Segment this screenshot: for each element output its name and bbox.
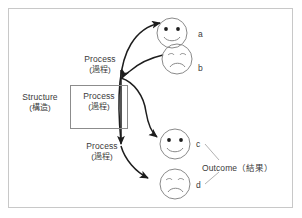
face-d-outline [160,169,190,199]
face-d [160,169,190,199]
face-tag-b: b [198,63,203,73]
process-top-label-jp: (過程) [76,65,124,75]
process-bottom-label-en: Process [78,141,126,152]
process-top-label: Process (過程) [76,54,124,75]
face-c-outline [160,129,190,159]
face-d-frown [168,188,183,192]
figure-root: Structure (構造) Process (過程) Process (過程)… [0,0,302,218]
face-c-smile [167,148,183,152]
leader-line-c-to-outcome [205,144,219,160]
face-d-eye-right [178,179,184,181]
face-d-eye-left [166,179,172,181]
outcome-label: Outcome（結果） [202,163,286,174]
face-b-frown [170,63,185,67]
face-tag-d: d [196,180,201,190]
face-a-outline [157,18,187,48]
face-b [162,44,192,74]
face-c-eye-left [167,138,171,142]
face-tag-a: a [198,29,203,39]
face-a [157,18,187,48]
arrow-face-b-to-process [122,55,163,78]
process-bottom-label-jp: (過程) [78,152,126,162]
process-box-label-en: Process [71,91,127,102]
process-box-label: Process (過程) [71,91,127,112]
leader-line-d-to-outcome [205,172,219,184]
process-bottom-label: Process (過程) [78,141,126,162]
face-a-eye-right [176,27,180,31]
face-b-eye-right [180,54,186,56]
face-c-eye-right [179,138,183,142]
face-b-eye-left [168,54,174,56]
structure-label-jp: (構造) [10,103,70,113]
face-c [160,129,190,159]
face-tag-c: c [196,139,200,149]
face-a-smile [164,37,180,41]
face-a-eye-left [164,27,168,31]
structure-label-en: Structure [10,92,70,103]
process-top-label-en: Process [76,54,124,65]
structure-label: Structure (構造) [10,92,70,113]
face-b-outline [162,44,192,74]
process-box-label-jp: (過程) [71,102,127,112]
